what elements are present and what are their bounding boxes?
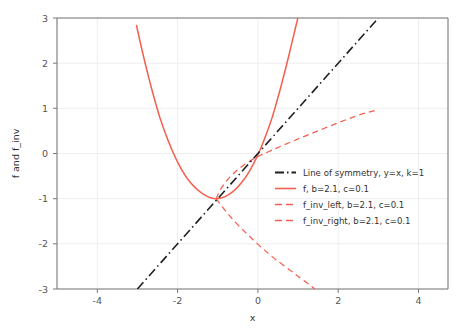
plot-canvas: -4 -2 0 2 4 3 2 1 0 -1 -2 -3 x f and f_i…: [0, 0, 465, 333]
x-tick-label-4: 4: [415, 295, 421, 306]
x-tick-label-0: -4: [93, 295, 102, 306]
y-axis-label: f and f_inv: [10, 128, 21, 178]
x-tick-label-1: -2: [173, 295, 182, 306]
y-tick-label-2: 1: [42, 103, 48, 114]
legend-label-1: f, b=2.1, c=0.1: [303, 184, 369, 194]
legend-label-2: f_inv_left, b=2.1, c=0.1: [303, 200, 404, 210]
x-tick-marks: [97, 289, 418, 293]
chart-figure: -4 -2 0 2 4 3 2 1 0 -1 -2 -3 x f and f_i…: [0, 0, 465, 333]
y-tick-label-3: 0: [42, 148, 48, 159]
y-tick-label-6: -3: [39, 284, 48, 295]
y-tick-label-1: 2: [42, 58, 48, 69]
y-tick-marks: [53, 18, 57, 289]
y-tick-label-0: 3: [42, 13, 48, 24]
x-axis-label: x: [250, 312, 256, 323]
y-tick-label-5: -2: [39, 238, 48, 249]
legend-label-3: f_inv_right, b=2.1, c=0.1: [303, 216, 411, 226]
legend-label-0: Line of symmetry, y=x, k=1: [303, 168, 424, 178]
x-tick-label-3: 2: [335, 295, 341, 306]
x-tick-label-2: 0: [255, 295, 261, 306]
y-tick-label-4: -1: [39, 193, 48, 204]
